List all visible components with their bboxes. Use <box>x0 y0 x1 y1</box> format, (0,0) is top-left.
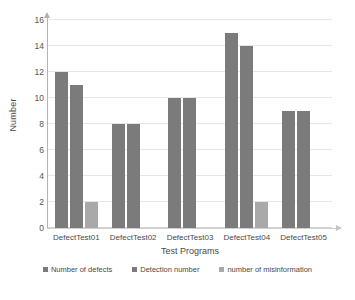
x-axis-tick-label: DefectTest02 <box>105 231 162 245</box>
bar-group <box>162 20 219 228</box>
y-axis-tick-label: 14 <box>35 42 44 51</box>
bar[interactable] <box>127 124 140 228</box>
bar[interactable] <box>297 111 310 228</box>
bar-group <box>218 20 275 228</box>
bar-group-bars <box>48 20 105 228</box>
legend-item[interactable]: Number of defects <box>43 266 112 274</box>
y-axis-arrow-icon <box>44 12 50 18</box>
bar[interactable] <box>225 33 238 228</box>
x-axis-tick-label: DefectTest05 <box>275 231 332 245</box>
bar-chart: Number 0246810121416 DefectTest01DefectT… <box>0 0 355 300</box>
x-axis-tick-label: DefectTest03 <box>162 231 219 245</box>
y-axis-tick-label: 6 <box>39 146 44 155</box>
bar-group-bars <box>105 20 162 228</box>
bar[interactable] <box>55 72 68 228</box>
y-axis-tick-label: 12 <box>35 68 44 77</box>
bar[interactable] <box>85 202 98 228</box>
legend-swatch-icon <box>43 267 48 272</box>
bar[interactable] <box>240 46 253 228</box>
bar[interactable] <box>70 85 83 228</box>
legend-swatch-icon <box>219 267 224 272</box>
plot-area <box>48 20 332 228</box>
chart-legend: Number of defectsDetection numbernumber … <box>0 266 355 274</box>
x-axis-tick-labels: DefectTest01DefectTest02DefectTest03Defe… <box>48 231 332 245</box>
bar-group-bars <box>275 20 332 228</box>
bar-group-bars <box>218 20 275 228</box>
x-axis-tick-label: DefectTest01 <box>48 231 105 245</box>
y-axis-tick-label: 0 <box>39 224 44 233</box>
bar[interactable] <box>282 111 295 228</box>
legend-label: Detection number <box>140 266 199 274</box>
bar-group <box>48 20 105 228</box>
x-axis-line <box>47 228 336 229</box>
bar[interactable] <box>168 98 181 228</box>
bar-groups <box>48 20 332 228</box>
y-axis-tick-label: 8 <box>39 120 44 129</box>
y-axis-tick-label: 4 <box>39 172 44 181</box>
x-axis-arrow-icon <box>336 225 342 231</box>
bar-group-bars <box>162 20 219 228</box>
bar-group <box>275 20 332 228</box>
y-axis-tick-label: 16 <box>35 16 44 25</box>
bar-group <box>105 20 162 228</box>
legend-swatch-icon <box>132 267 137 272</box>
y-axis-tick-label: 10 <box>35 94 44 103</box>
bar[interactable] <box>112 124 125 228</box>
legend-label: Number of defects <box>51 266 112 274</box>
x-axis-title: Test Programs <box>48 246 332 256</box>
y-axis-title-text: Number <box>8 98 18 131</box>
bar[interactable] <box>255 202 268 228</box>
legend-label: number of misinformation <box>227 266 312 274</box>
legend-item[interactable]: number of misinformation <box>219 266 312 274</box>
legend-item[interactable]: Detection number <box>132 266 199 274</box>
bar[interactable] <box>183 98 196 228</box>
x-axis-tick-label: DefectTest04 <box>218 231 275 245</box>
y-axis-tick-label: 2 <box>39 198 44 207</box>
y-axis-tick-labels: 0246810121416 <box>20 20 44 228</box>
